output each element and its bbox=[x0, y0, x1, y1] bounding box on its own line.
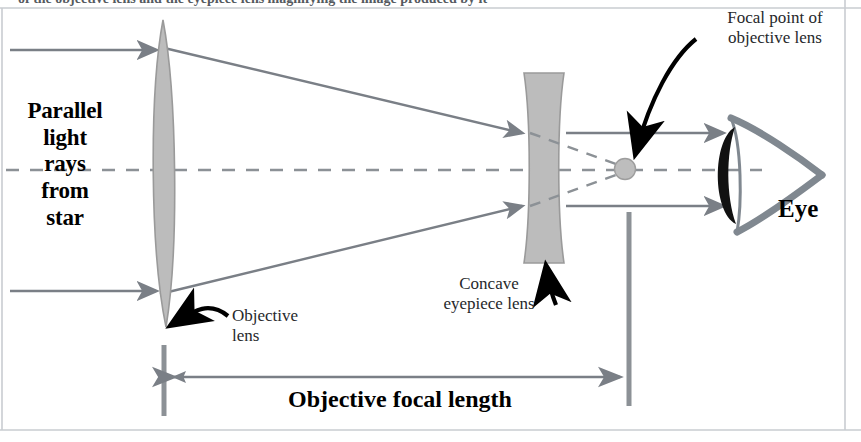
label-parallel-rays-line3: rays bbox=[6, 151, 124, 178]
label-objective-focal-length: Objective focal length bbox=[205, 386, 595, 414]
label-concave-eyepiece-line1: Concave bbox=[424, 274, 554, 294]
label-parallel-light-rays: Parallel light rays from star bbox=[6, 98, 124, 231]
eye-pupil bbox=[718, 127, 736, 224]
label-parallel-rays-line2: light bbox=[6, 125, 124, 152]
label-focal-point: Focal point of objective lens bbox=[700, 8, 850, 47]
label-concave-eyepiece-line2: eyepiece lens bbox=[424, 294, 554, 314]
diagram-canvas: of the objective lens and the eyepiece l… bbox=[0, 0, 861, 442]
concave-eyepiece-lens bbox=[524, 73, 564, 263]
objective-lens bbox=[153, 20, 175, 327]
label-parallel-rays-line5: star bbox=[6, 205, 124, 232]
label-objective-lens-line2: lens bbox=[232, 326, 352, 346]
telescope-ray-diagram bbox=[0, 0, 861, 442]
label-parallel-rays-line1: Parallel bbox=[6, 98, 124, 125]
label-focal-point-line1: Focal point of bbox=[700, 8, 850, 28]
converging-ray-top bbox=[160, 47, 522, 133]
label-concave-eyepiece: Concave eyepiece lens bbox=[424, 274, 554, 313]
objective-lens-pointer-arrow bbox=[176, 308, 228, 322]
focal-point-marker bbox=[615, 159, 636, 180]
eye-upper-curve bbox=[731, 118, 822, 175]
focal-point-pointer-arrow bbox=[637, 39, 696, 148]
label-eye: Eye bbox=[778, 194, 818, 223]
label-objective-lens: Objective lens bbox=[232, 306, 352, 345]
label-parallel-rays-line4: from bbox=[6, 178, 124, 205]
label-objective-lens-line1: Objective bbox=[232, 306, 352, 326]
label-focal-point-line2: objective lens bbox=[700, 28, 850, 48]
